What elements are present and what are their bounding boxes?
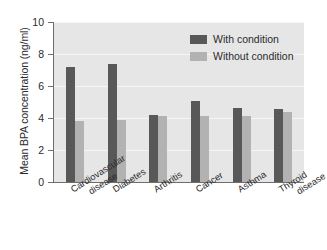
gridline [54, 22, 304, 23]
legend-swatch-icon [190, 52, 207, 61]
bar-group [66, 22, 84, 182]
bar [66, 67, 75, 182]
bar [283, 112, 292, 182]
y-axis-title: Mean BPA concentration (ng/ml) [18, 16, 30, 186]
legend-item: With condition [190, 33, 294, 45]
gridline [54, 86, 304, 87]
bar [233, 108, 242, 182]
legend-swatch-icon [190, 35, 207, 44]
legend-label: With condition [213, 33, 279, 45]
bar [158, 116, 167, 182]
bar [75, 121, 84, 182]
bar [274, 109, 283, 182]
bar [200, 116, 209, 182]
bar [242, 116, 251, 182]
legend-item: Without condition [190, 50, 294, 62]
gridline [54, 150, 304, 151]
bar-group [149, 22, 167, 182]
bar [149, 115, 158, 182]
chart-legend: With conditionWithout condition [190, 33, 294, 67]
legend-label: Without condition [213, 50, 294, 62]
bar [191, 101, 200, 182]
gridline [54, 118, 304, 119]
